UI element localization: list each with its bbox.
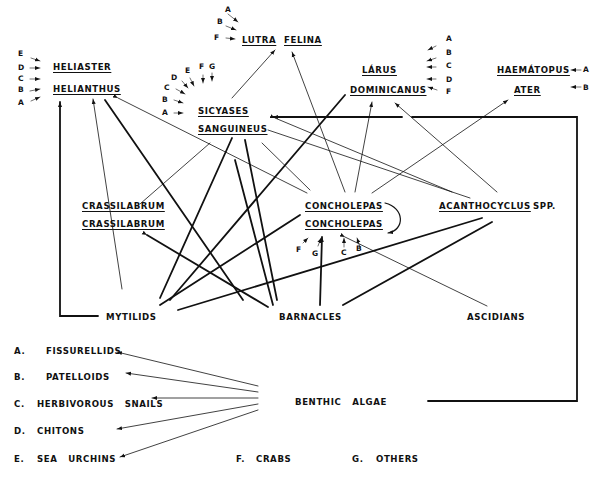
prey-ascidians: ASCIDIANS [467,313,525,322]
algae-to-sicyases-bracket [412,117,577,401]
legend-label-b: PATELLOIDS [46,373,110,382]
sicyases-name-2: SANGUINEUS [198,125,268,134]
legend-label-e: SEA URCHINS [37,455,116,464]
larus-prey-b: B [446,49,452,57]
lutra-prey-b: B [217,18,223,26]
sicyases-prey-b: B [162,96,168,104]
sicyases-name-1: SICYASES [198,107,249,116]
legend-key-g: G. [352,455,364,464]
legend-key-f: F. [236,455,245,464]
legend-label-f: CRABS [256,455,291,464]
heliaster-name-1: HELIASTER [53,63,111,72]
heliaster-prey-b: B [18,86,24,94]
sicyases-prey-d: D [171,74,177,82]
crassilabrum-name-1: CRASSILABRUM [82,202,165,211]
legend-label-g: OTHERS [376,455,419,464]
larus-prey-d: D [446,76,452,84]
haematopus-name-1: HAEMÁTOPUS [497,66,570,75]
heliaster-prey-e: E [18,50,23,58]
prey-benthic-algae: BENTHIC ALGAE [295,398,387,407]
sicyases-prey-e: E [185,67,190,75]
larus-name-1: LÁRUS [362,66,397,75]
prey-barnacles: BARNACLES [279,313,342,322]
haematopus-prey-a: A [583,66,589,74]
lutra-name-2: FELINA [284,36,322,45]
larus-prey-a: A [446,35,452,43]
lutra-name-1: LUTRA [242,36,276,45]
crassilabrum-name-2: CRASSILABRUM [82,220,165,229]
larus-prey-c: C [446,62,452,70]
acanthocyclus-spp: SPP. [533,202,556,211]
legend-label-a: FISSURELLIDS [46,347,121,356]
larus-prey-f: F [446,88,451,96]
legend-label-d: CHITONS [37,427,84,436]
sicyases-prey-a: A [162,109,168,117]
concholepas-prey-c: C [341,249,347,257]
legend-key-d: D. [14,427,26,436]
legend-key-e: E. [14,455,24,464]
sicyases-prey-f: F [199,63,204,71]
sicyases-prey-g: G [209,63,215,71]
concholepas-name-1: CONCHOLEPAS [305,202,383,211]
legend-key-a: A. [14,347,25,356]
heliaster-prey-a: A [18,99,24,107]
prey-mytilids: MYTILIDS [106,313,157,322]
acanthocyclus-name: ACANTHOCYCLUS [439,202,531,211]
concholepas-name-2: CONCHOLEPAS [305,220,383,229]
concholepas-prey-f: F [296,246,301,254]
heliaster-prey-d: D [18,64,24,72]
concholepas-prey-b: B [356,245,362,253]
heliaster-name-2: HELIANTHUS [53,85,121,94]
legend-label-c: HERBIVOROUS SNAILS [37,400,163,409]
haematopus-prey-b: B [583,84,589,92]
legend-key-c: C. [14,400,25,409]
lutra-prey-f: F [214,34,219,42]
heliaster-prey-c: C [18,75,24,83]
legend-key-b: B. [14,373,25,382]
concholepas-prey-g: G [312,250,318,258]
lutra-prey-a: A [225,6,231,14]
sicyases-prey-c: C [164,84,170,92]
haematopus-name-2: ATER [514,86,541,95]
larus-name-2: DOMINICANUS [350,86,427,95]
